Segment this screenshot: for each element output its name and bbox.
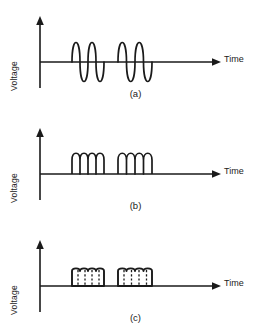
filtered-pulse-1-ripple-lines [78, 270, 99, 285]
time-axis-label-c: Time [224, 278, 244, 288]
rectified-burst-2 [118, 153, 152, 174]
panel-label-c-text: (c) [124, 312, 141, 323]
panel-a: Voltage Time (a) [0, 0, 265, 112]
panel-label-b-text: (b) [124, 200, 142, 211]
rectified-burst-1 [72, 153, 104, 174]
panel-c: Voltage Time (c) [0, 224, 265, 336]
filtered-pulse-2-ripple-lines [124, 270, 147, 285]
voltage-axis-label-wrap-b: Voltage [4, 134, 20, 198]
time-axis-a [40, 58, 221, 66]
time-axis-b [40, 170, 221, 178]
voltage-axis-label-b: Voltage [0, 180, 46, 196]
voltage-axis-label-c: Voltage [0, 292, 46, 308]
voltage-waveform-figure: Voltage Time (a) Voltage Time (b) [0, 0, 265, 336]
panel-label-b: (b) [0, 200, 265, 211]
voltage-axis-label-wrap-a: Voltage [4, 22, 20, 86]
time-axis-label-b: Time [224, 166, 244, 176]
panel-label-a: (a) [0, 88, 265, 99]
panel-label-a-text: (a) [124, 88, 142, 99]
panel-label-c: (c) [0, 312, 265, 323]
panel-b: Voltage Time (b) [0, 112, 265, 224]
time-axis-label-a: Time [224, 54, 244, 64]
voltage-axis-label-wrap-c: Voltage [4, 246, 20, 310]
voltage-axis-label-a: Voltage [0, 68, 46, 84]
